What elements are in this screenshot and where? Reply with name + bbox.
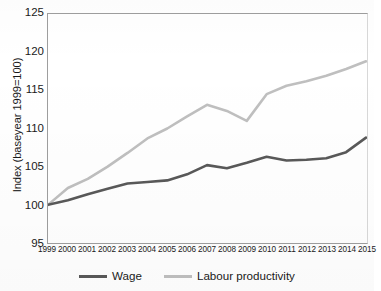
legend-line-swatch-icon (79, 275, 107, 278)
plot-area (47, 13, 368, 244)
x-axis-tick-labels: 1999200020012002200320042005200620072008… (47, 246, 368, 260)
x-axis-tick-2015: 2015 (352, 246, 381, 254)
chart-legend: WageLabour productivity (0, 266, 374, 286)
y-axis-tick-110: 110 (18, 123, 44, 135)
legend-line-swatch-icon (164, 275, 192, 278)
legend-label: Labour productivity (197, 270, 295, 282)
legend-item-labour-productivity[interactable]: Labour productivity (164, 270, 295, 282)
line-series-labour-productivity (48, 61, 366, 205)
y-axis-tick-120: 120 (18, 46, 44, 58)
y-axis-tick-125: 125 (18, 7, 44, 19)
y-axis-tick-100: 100 (18, 200, 44, 212)
line-series-wage (48, 138, 366, 205)
y-axis-tick-115: 115 (18, 84, 44, 96)
y-axis-tick-105: 105 (18, 161, 44, 173)
series-canvas (48, 14, 367, 243)
legend-item-wage[interactable]: Wage (79, 270, 142, 282)
legend-label: Wage (112, 270, 142, 282)
